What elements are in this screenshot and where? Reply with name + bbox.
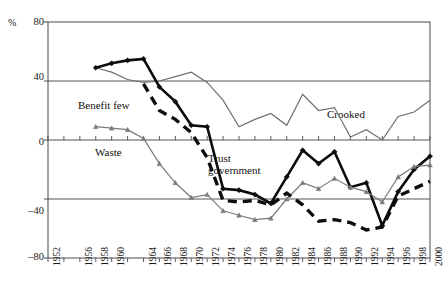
x-tick-label-1952: 1952 — [52, 247, 62, 266]
x-tick-label-1982: 1982 — [291, 247, 301, 266]
x-tick-label-1958: 1958 — [100, 247, 110, 266]
x-tick-label-1966: 1966 — [163, 247, 173, 266]
x-tick-label-1996: 1996 — [402, 247, 412, 266]
x-tick-label-1970: 1970 — [195, 247, 205, 266]
x-tick-label-1960: 1960 — [116, 247, 126, 266]
x-tick-label-1964: 1964 — [148, 247, 158, 266]
x-tick-label-1974: 1974 — [227, 247, 237, 266]
series-lines — [93, 56, 432, 230]
x-tick-label-1986: 1986 — [323, 247, 333, 266]
x-tick-label-1968: 1968 — [179, 247, 189, 266]
series-benefit-few — [144, 84, 431, 230]
x-tick-label-1994: 1994 — [386, 247, 396, 266]
chart-container: % 80 40 0 –40 –80 Benefit few Waste Trus… — [0, 0, 445, 305]
x-tick-label-1972: 1972 — [211, 247, 221, 266]
x-tick-label-1984: 1984 — [307, 247, 317, 266]
x-tick-label-2000: 2000 — [434, 247, 444, 266]
x-tick-label-1990: 1990 — [354, 247, 364, 266]
x-tick-label-1988: 1988 — [339, 247, 349, 266]
x-tick-label-1976: 1976 — [243, 247, 253, 266]
y-axis-ticks — [44, 22, 48, 258]
x-tick-label-1978: 1978 — [259, 247, 269, 266]
series-crooked — [96, 68, 430, 140]
x-tick-label-1998: 1998 — [418, 247, 428, 266]
x-tick-label-1980: 1980 — [275, 247, 285, 266]
x-tick-label-1992: 1992 — [370, 247, 380, 266]
x-tick-label-1956: 1956 — [84, 247, 94, 266]
